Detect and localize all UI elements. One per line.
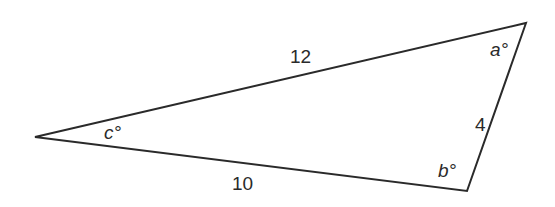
side-label-10: 10 — [232, 173, 253, 194]
triangle-diagram: 12 4 10 a° b° c° — [0, 0, 555, 207]
side-label-4: 4 — [475, 114, 486, 135]
angle-label-b: b° — [438, 160, 457, 181]
angle-label-a: a° — [490, 39, 509, 60]
side-label-12: 12 — [290, 46, 311, 67]
angle-label-c: c° — [104, 122, 122, 143]
